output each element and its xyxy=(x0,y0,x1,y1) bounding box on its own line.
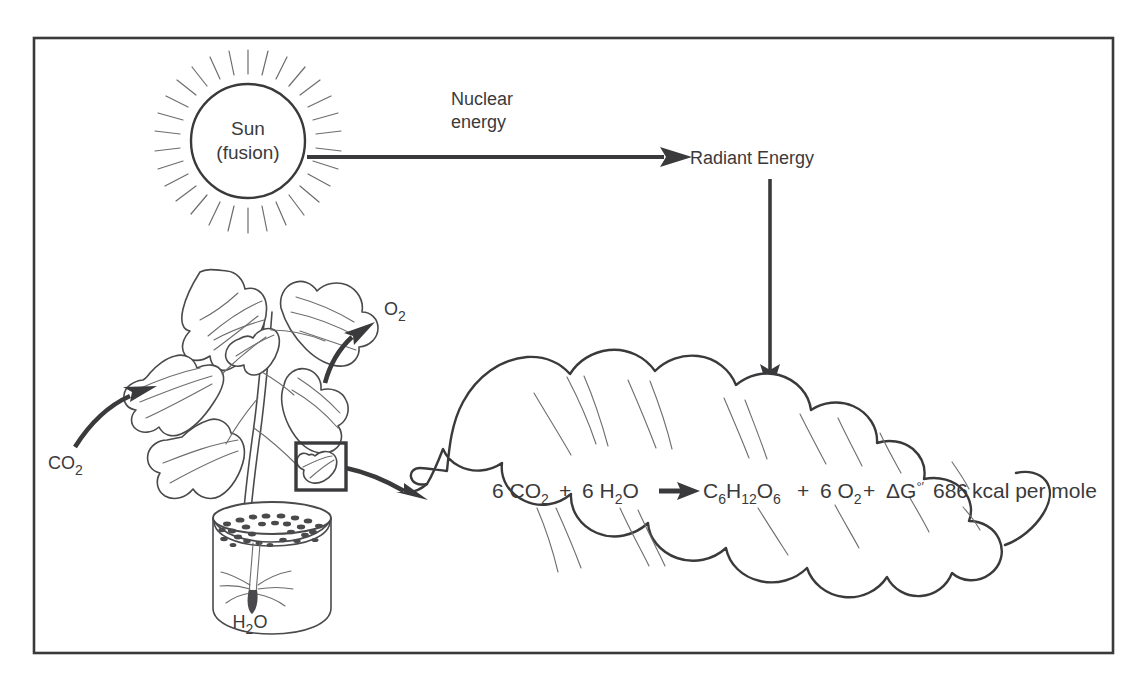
radiant-energy-label: Radiant Energy xyxy=(690,148,814,168)
nuclear-energy-label-line1: Nuclear xyxy=(451,89,513,109)
equation-energy-value: 686 xyxy=(933,479,968,502)
sun-label-line1: Sun xyxy=(231,118,265,139)
equation-plus-2: + xyxy=(797,479,809,502)
sun-label-line2: (fusion) xyxy=(216,142,279,163)
beaker: H2O xyxy=(213,502,331,637)
equation-energy-units: kcal per mole xyxy=(972,479,1097,502)
equation-plus-3: + xyxy=(863,479,875,502)
equation-plus-1: + xyxy=(559,479,571,502)
nuclear-energy-label-line2: energy xyxy=(451,112,506,132)
photosynthesis-diagram: Sun (fusion) Nuclear energy Radiant Ener… xyxy=(0,0,1141,675)
figure-canvas: Sun (fusion) Nuclear energy Radiant Ener… xyxy=(0,0,1141,675)
sun-disc xyxy=(191,84,305,198)
